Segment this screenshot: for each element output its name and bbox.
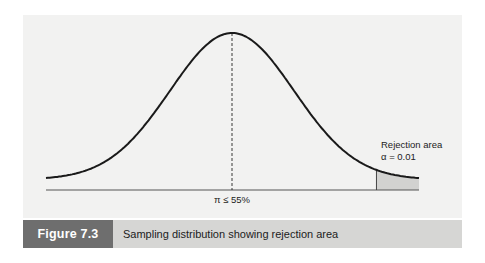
normal-distribution-chart: π ≤ 55% Rejection area α = 0.01 [0,0,485,220]
rejection-area-label: Rejection area [381,139,443,150]
alpha-label: α = 0.01 [381,151,416,162]
distribution-curve [46,33,419,178]
figure-title: Sampling distribution showing rejection … [113,220,462,248]
mean-label: π ≤ 55% [214,194,251,205]
figure-caption: Figure 7.3 Sampling distribution showing… [23,220,462,248]
figure-number: Figure 7.3 [23,220,113,248]
